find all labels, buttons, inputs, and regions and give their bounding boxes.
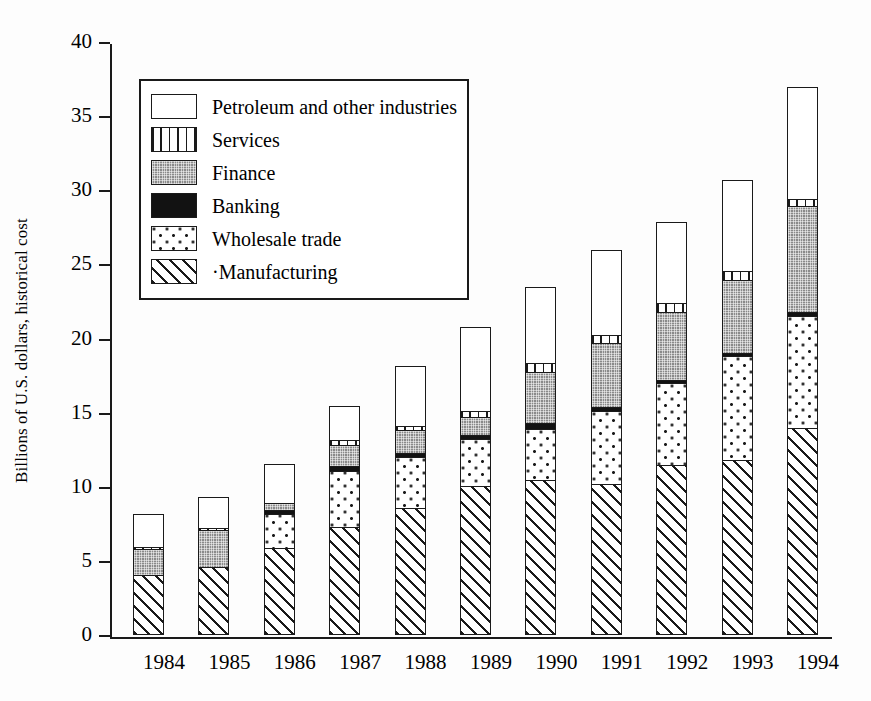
bar-segment-manufacturing [198, 567, 229, 635]
bar-1984[interactable] [133, 514, 164, 635]
y-axis-tick-label: 5 [82, 549, 93, 571]
bar-segment-petroleum-and-other-industries [722, 180, 753, 272]
y-axis-tick: 10 [99, 487, 110, 489]
bar-segment-services [722, 271, 753, 281]
bar-segment-manufacturing [395, 508, 426, 635]
legend-swatch-icon [151, 226, 197, 251]
bar-segment-petroleum-and-other-industries [591, 250, 622, 336]
bar-segment-finance [198, 530, 229, 569]
bar-segment-finance [525, 372, 556, 424]
bar-segment-finance [133, 549, 164, 576]
bar-1989[interactable] [460, 327, 491, 635]
y-axis-tick: 40 [99, 42, 110, 44]
bar-segment-manufacturing [264, 548, 295, 635]
bar-segment-finance [395, 430, 426, 454]
bar-1994[interactable] [787, 87, 818, 635]
legend-swatch-icon [151, 160, 197, 185]
legend-item-label: Finance [212, 162, 275, 184]
bar-1993[interactable] [722, 180, 753, 635]
legend-swatch-icon [151, 94, 197, 119]
bar-1985[interactable] [198, 497, 229, 635]
legend-item-label: Services [212, 129, 280, 151]
bar-segment-finance [591, 342, 622, 407]
bar-segment-finance [722, 280, 753, 354]
legend-swatch-icon [151, 193, 197, 218]
bar-segment-wholesale-trade [264, 513, 295, 549]
legend-item-label: Banking [212, 195, 280, 217]
bar-segment-manufacturing [787, 427, 818, 635]
bar-segment-manufacturing [460, 485, 491, 635]
bar-segment-petroleum-and-other-industries [787, 87, 818, 200]
x-axis-tick-label-1991: 1991 [587, 650, 657, 674]
bar-segment-wholesale-trade [656, 383, 687, 466]
bar-segment-manufacturing [133, 574, 164, 635]
bar-segment-wholesale-trade [329, 470, 360, 528]
y-axis-tick: 35 [99, 116, 110, 118]
y-axis-tick: 25 [99, 264, 110, 266]
y-axis-tick-label: 30 [71, 178, 92, 200]
bar-1991[interactable] [591, 250, 622, 635]
y-axis-line [110, 44, 112, 638]
bar-segment-manufacturing [591, 484, 622, 635]
y-axis-tick-label: 25 [71, 252, 92, 274]
bar-segment-wholesale-trade [460, 439, 491, 486]
bar-1992[interactable] [656, 222, 687, 635]
bar-segment-wholesale-trade [787, 316, 818, 429]
legend-item[interactable]: Petroleum and other industries [151, 90, 457, 123]
bar-segment-finance [329, 445, 360, 467]
y-axis-tick: 30 [99, 190, 110, 192]
y-axis-title: Billions of U.S. dollars, historical cos… [0, 0, 44, 701]
bar-segment-petroleum-and-other-industries [329, 406, 360, 442]
legend-item-label: ·Manufacturing [212, 261, 338, 283]
legend-swatch-icon [151, 127, 197, 152]
x-axis-tick-label-1990: 1990 [521, 650, 591, 674]
bar-segment-petroleum-and-other-industries [656, 222, 687, 304]
y-axis-tick: 0 [99, 635, 110, 637]
stacked-bar-chart: Billions of U.S. dollars, historical cos… [0, 0, 871, 701]
legend-item-label: Wholesale trade [212, 228, 341, 250]
bar-segment-petroleum-and-other-industries [395, 366, 426, 427]
bar-1988[interactable] [395, 366, 426, 635]
bar-segment-services [525, 363, 556, 373]
x-axis-tick-label-1987: 1987 [325, 650, 395, 674]
x-axis-tick-label-1985: 1985 [194, 650, 264, 674]
y-axis-tick-label: 35 [71, 104, 92, 126]
legend-item[interactable]: Finance [151, 156, 457, 189]
bar-segment-wholesale-trade [722, 356, 753, 461]
bar-segment-manufacturing [329, 527, 360, 635]
bar-segment-petroleum-and-other-industries [525, 287, 556, 364]
bar-segment-finance [787, 206, 818, 313]
bar-1986[interactable] [264, 464, 295, 635]
bar-segment-petroleum-and-other-industries [264, 464, 295, 504]
legend-swatch-icon [151, 259, 197, 284]
legend-item[interactable]: Banking [151, 189, 457, 222]
chart-legend: Petroleum and other industriesServicesFi… [139, 79, 469, 300]
bar-segment-manufacturing [656, 465, 687, 635]
x-axis-tick-label-1986: 1986 [260, 650, 330, 674]
bar-segment-finance [656, 311, 687, 381]
legend-item[interactable]: Services [151, 123, 457, 156]
y-axis-tick: 20 [99, 339, 110, 341]
bar-segment-petroleum-and-other-industries [460, 327, 491, 412]
bar-1990[interactable] [525, 287, 556, 635]
legend-item-label: Petroleum and other industries [212, 96, 457, 118]
y-axis-tick-label: 20 [71, 327, 92, 349]
y-axis-tick: 5 [99, 561, 110, 563]
bar-segment-wholesale-trade [591, 411, 622, 485]
bar-segment-services [591, 335, 622, 344]
bar-segment-manufacturing [722, 460, 753, 635]
legend-item[interactable]: Wholesale trade [151, 222, 457, 255]
x-axis-tick-label-1984: 1984 [129, 650, 199, 674]
y-axis-tick-label: 40 [71, 30, 92, 52]
x-axis-tick-label-1992: 1992 [652, 650, 722, 674]
bar-1987[interactable] [329, 406, 360, 635]
y-axis-tick: 15 [99, 413, 110, 415]
legend-item[interactable]: ·Manufacturing [151, 255, 457, 288]
y-axis-tick-label: 0 [82, 623, 93, 645]
y-axis-tick-label: 15 [71, 401, 92, 423]
bar-segment-petroleum-and-other-industries [198, 497, 229, 530]
y-axis-tick-label: 10 [71, 475, 92, 497]
bar-segment-services [656, 302, 687, 312]
x-axis-tick-label-1994: 1994 [783, 650, 853, 674]
bar-segment-finance [264, 503, 295, 512]
